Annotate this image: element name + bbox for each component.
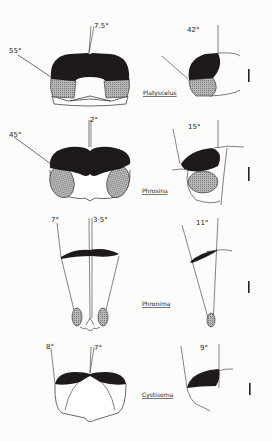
dorsal-eye	[61, 249, 119, 259]
ventral-eye-right	[98, 308, 108, 326]
angle-label-side: 11°	[196, 219, 208, 227]
angle-label-medial: 7°	[94, 344, 102, 352]
front-view-platyscelus: 7.5° 55°	[9, 22, 130, 106]
row-phrosina: 2° 45° Phrosina 15°	[9, 116, 250, 205]
angle-label-lateral: 55°	[9, 47, 21, 55]
scale-bar	[249, 383, 251, 395]
dorsal-eye	[55, 372, 126, 385]
ventral-eye-left	[72, 308, 82, 326]
row-platyscelus: 7.5° 55° Platyscelus 42°	[9, 22, 250, 106]
angle-label-lateral: 7°	[51, 216, 59, 224]
angle-label-medial: 7.5°	[94, 22, 109, 30]
dorsal-eye	[189, 53, 221, 80]
dorsal-eye	[181, 148, 220, 171]
angle-label-side: 42°	[187, 26, 199, 34]
ventral-eye-left	[50, 78, 76, 98]
scale-bar	[248, 281, 250, 293]
species-label: Phrosina	[142, 187, 168, 194]
angle-label-lateral: 45°	[9, 131, 21, 139]
side-view-cystisoma: 9°	[181, 344, 251, 411]
angle-label-medial: 2°	[90, 116, 98, 124]
scale-bar	[248, 69, 250, 82]
ventral-eye	[189, 78, 216, 96]
angle-label-side: 9°	[200, 344, 208, 352]
dorsal-eye	[187, 369, 220, 388]
front-view-phronima: 7° 3·5°	[51, 216, 119, 331]
side-view-phrosina: 15°	[172, 120, 250, 205]
species-label: Cystisoma	[142, 391, 174, 399]
scale-bar	[248, 167, 250, 181]
ventral-eye	[188, 171, 218, 193]
figure-canvas: 7.5° 55° Platyscelus 42° 2°	[0, 0, 272, 441]
front-view-cystisoma: 8° 7°	[46, 343, 126, 422]
front-view-phrosina: 2° 45°	[9, 116, 133, 201]
row-cystisoma: 8° 7° Cystisoma 9°	[46, 343, 251, 422]
angle-label-side: 15°	[188, 123, 200, 131]
row-phronima: 7° 3·5° Phronima 11°	[51, 216, 250, 331]
ventral-eye-right	[104, 78, 130, 98]
dorsal-eye	[190, 250, 218, 263]
angle-label-medial: 3·5°	[93, 216, 108, 224]
ventral-eye	[207, 313, 215, 327]
side-view-phronima: 11°	[182, 218, 250, 327]
species-label: Phronima	[142, 300, 171, 307]
species-label: Platyscelus	[143, 89, 177, 97]
dorsal-eye	[51, 53, 129, 81]
side-view-platyscelus: 42°	[162, 25, 250, 96]
angle-label-lateral: 8°	[46, 343, 54, 351]
